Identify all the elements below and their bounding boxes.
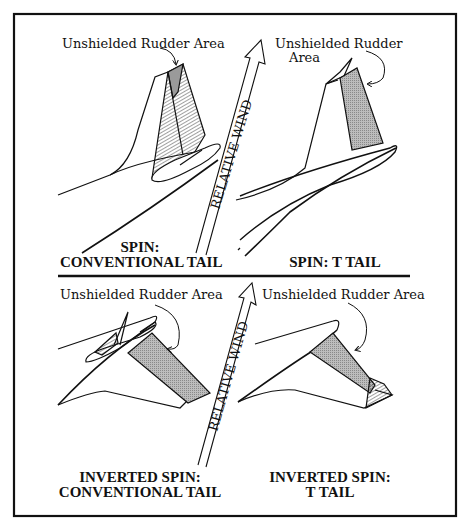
callout-label: Unshielded Rudder Area xyxy=(62,37,225,51)
fin-outline xyxy=(58,391,188,408)
callout-arrow xyxy=(366,51,385,84)
caption-line: SPIN: T TAIL xyxy=(270,255,400,270)
caption-line: INVERTED SPIN: xyxy=(50,470,230,485)
fuselage-line xyxy=(245,148,396,256)
fin-tip xyxy=(114,312,128,345)
caption-line: CONVENTIONAL TAIL xyxy=(50,485,230,500)
unshielded-rudder-shade xyxy=(310,333,375,393)
callout-label: Unshielded Rudder Area xyxy=(262,288,425,302)
panel-caption: INVERTED SPIN: CONVENTIONAL TAIL xyxy=(50,470,230,500)
panel-spin-conventional-drawing xyxy=(58,64,220,253)
caption-line: T TAIL xyxy=(260,485,400,500)
panel-spin-t-tail-drawing xyxy=(236,58,397,250)
panel-caption: SPIN: CONVENTIONAL TAIL xyxy=(60,240,220,270)
panel-inverted-t-tail-drawing xyxy=(238,320,392,408)
caption-line: CONVENTIONAL TAIL xyxy=(60,255,220,270)
relative-wind-label: RELATIVE WIND xyxy=(205,319,251,432)
hatched-rudder-tip xyxy=(366,378,392,408)
unshielded-rudder-shade xyxy=(340,68,383,150)
callout-label: Area xyxy=(289,51,320,65)
fuselage-line xyxy=(236,80,338,200)
callout-label: Unshielded Rudder Area xyxy=(60,288,223,302)
caption-line: SPIN: xyxy=(60,240,220,255)
panel-caption: SPIN: T TAIL xyxy=(270,255,400,270)
unshielded-rudder-shade xyxy=(128,333,210,403)
panel-caption: INVERTED SPIN: T TAIL xyxy=(260,470,400,500)
panel-inverted-conventional-drawing xyxy=(58,312,210,408)
callout-arrow xyxy=(348,303,367,350)
callout-label: Unshielded Rudder xyxy=(275,37,403,51)
caption-line: INVERTED SPIN: xyxy=(260,470,400,485)
fuselage-line xyxy=(238,330,337,402)
